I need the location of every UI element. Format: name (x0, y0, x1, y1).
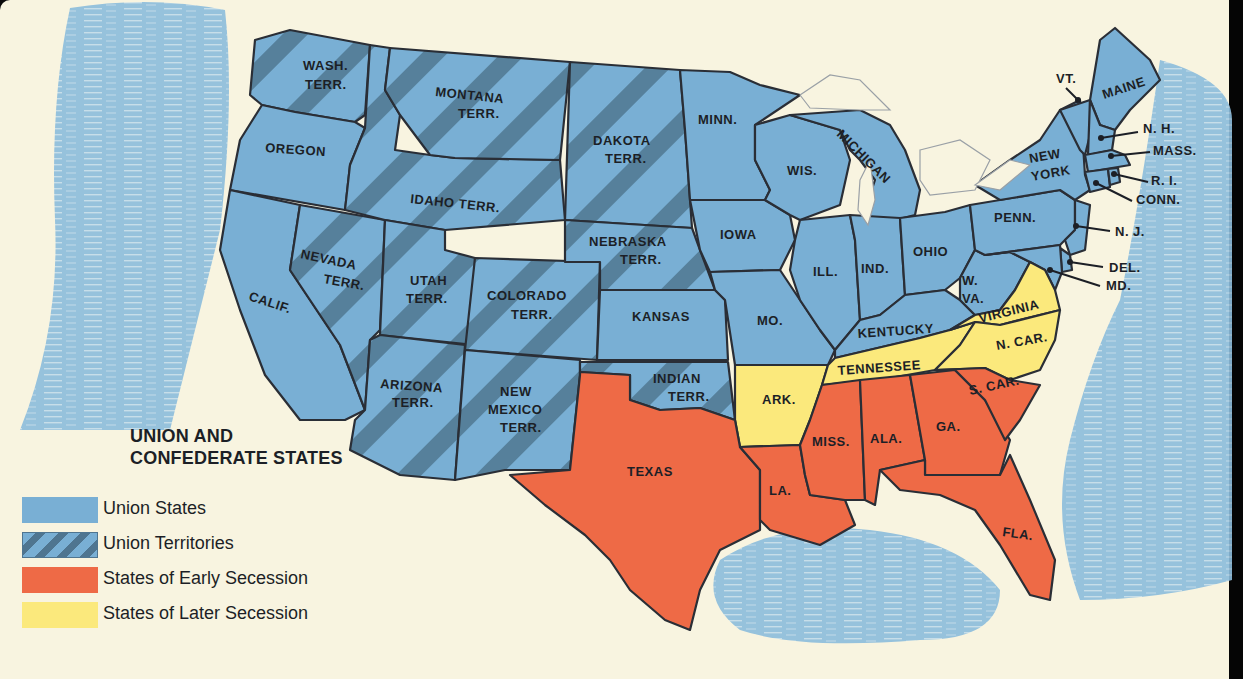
label-nh: N. H. (1143, 121, 1175, 136)
label-new-mexico-terr: NEW (500, 384, 532, 399)
label-la: LA. (769, 483, 791, 498)
label-w-va-2: VA. (962, 291, 984, 306)
label-ga: GA. (936, 419, 961, 434)
label-penn: PENN. (994, 210, 1036, 225)
label-utah-terr: UTAH (410, 273, 447, 288)
label-indian-terr: INDIAN (653, 371, 701, 386)
label-indian-terr-2: TERR. (668, 389, 710, 404)
label-utah-terr-2: TERR. (406, 291, 448, 306)
label-w-va: W. (962, 273, 978, 288)
label-iowa: IOWA (720, 227, 757, 242)
label-new-mexico-terr-2: MEXICO (488, 402, 542, 417)
legend-item-later-secession: States of Later Secession (22, 600, 382, 635)
legend-label: Union States (103, 498, 206, 519)
union-states-swatch (22, 497, 98, 523)
label-vt: VT. (1056, 71, 1076, 86)
legend-item-union-states: Union States (22, 495, 382, 530)
label-miss: MISS. (812, 434, 850, 449)
label-dakota-terr-2: TERR. (605, 151, 647, 166)
label-nebraska-terr: NEBRASKA (589, 234, 667, 249)
label-nebraska-terr-2: TERR. (620, 252, 662, 267)
early-secession-swatch (22, 567, 98, 593)
label-new-mexico-terr-3: TERR. (500, 420, 542, 435)
label-ill: ILL. (813, 264, 838, 279)
legend-items: Union States Union Territories States of… (22, 495, 382, 635)
region-kansas[interactable] (597, 290, 728, 360)
legend-label: States of Later Secession (103, 603, 308, 624)
legend-item-early-secession: States of Early Secession (22, 565, 382, 600)
label-arizona-terr-2: TERR. (392, 395, 434, 410)
label-wash-terr: WASH. (303, 58, 348, 73)
label-ark: ARK. (762, 392, 796, 407)
label-ri: R. I. (1151, 173, 1177, 188)
label-montana-terr-2: TERR. (458, 106, 500, 121)
label-colorado-terr-2: TERR. (511, 307, 553, 322)
legend-label: States of Early Secession (103, 568, 308, 589)
map-title-line1: UNION AND (130, 425, 390, 447)
label-ind: IND. (861, 261, 889, 276)
label-colorado-terr: COLORADO (487, 288, 567, 303)
label-ala: ALA. (870, 431, 902, 446)
union-territories-swatch (22, 532, 98, 558)
legend-item-union-territories: Union Territories (22, 530, 382, 565)
legend-label: Union Territories (103, 533, 234, 554)
label-wis: WIS. (787, 163, 817, 178)
label-kansas: KANSAS (632, 309, 690, 324)
label-md: MD. (1106, 278, 1131, 293)
label-mo: MO. (757, 313, 783, 328)
label-texas: TEXAS (627, 464, 673, 479)
map-title-line2: CONFEDERATE STATES (130, 447, 390, 469)
label-ohio: OHIO (913, 244, 948, 259)
map-title: UNION AND CONFEDERATE STATES (130, 425, 390, 469)
label-minn: MINN. (698, 112, 737, 127)
later-secession-swatch (22, 602, 98, 628)
label-conn: CONN. (1136, 192, 1180, 207)
label-dakota-terr: DAKOTA (593, 133, 651, 148)
label-nj: N. J. (1115, 224, 1145, 239)
label-del: DEL. (1109, 260, 1141, 275)
label-mass: MASS. (1153, 143, 1197, 158)
region-montana-terr[interactable] (385, 48, 570, 160)
label-wash-terr-2: TERR. (305, 77, 347, 92)
